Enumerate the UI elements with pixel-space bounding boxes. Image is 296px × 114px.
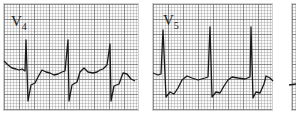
trace-v4 <box>4 40 135 101</box>
ecg-traces <box>0 0 296 114</box>
trace-v5 <box>153 27 273 98</box>
trace-v6-partial <box>289 84 296 85</box>
